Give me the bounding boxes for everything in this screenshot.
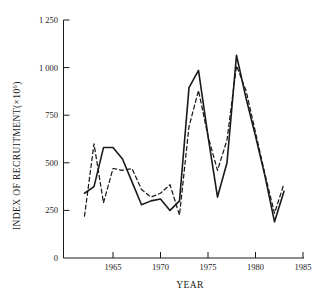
y-tick-label-1000: 1 000 bbox=[39, 63, 58, 73]
y-axis-ticks bbox=[64, 20, 70, 210]
y-axis-title-main: INDEX OF RECRUITMENT(×10 bbox=[12, 88, 23, 230]
y-tick-label-1250: 1 250 bbox=[39, 15, 58, 25]
x-tick-label-1985: 1985 bbox=[295, 262, 312, 272]
x-tick-label-1980: 1980 bbox=[247, 262, 264, 272]
x-tick-label-1965: 1965 bbox=[105, 262, 122, 272]
recruitment-index-chart: 1 250 1 000 750 500 250 0 1965 1970 1975… bbox=[0, 0, 329, 304]
y-tick-label-0: 0 bbox=[54, 253, 58, 263]
x-axis-ticks bbox=[113, 252, 303, 258]
y-tick-label-750: 750 bbox=[45, 110, 58, 120]
x-axis-title: YEAR bbox=[176, 280, 204, 290]
series-line-solid bbox=[85, 55, 285, 222]
x-tick-label-1970: 1970 bbox=[152, 262, 169, 272]
y-axis-title: INDEX OF RECRUITMENT(×106) bbox=[11, 81, 23, 230]
chart-svg: 1 250 1 000 750 500 250 0 1965 1970 1975… bbox=[0, 0, 329, 304]
x-tick-label-1975: 1975 bbox=[200, 262, 217, 272]
y-axis-title-close: ) bbox=[12, 81, 23, 85]
y-tick-label-250: 250 bbox=[45, 205, 58, 215]
y-tick-label-500: 500 bbox=[45, 158, 58, 168]
